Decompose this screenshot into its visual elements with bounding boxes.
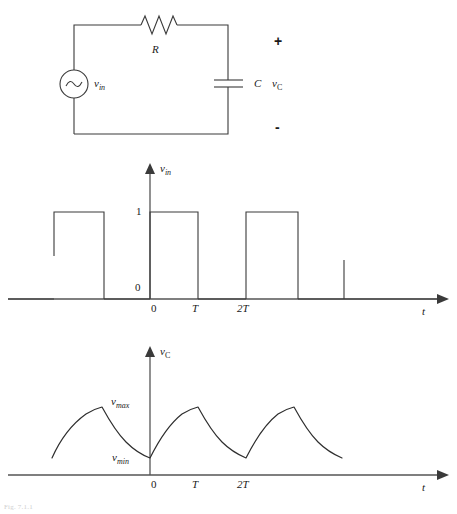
vin-x-axis-label: t: [422, 306, 425, 317]
vc-ytick-vmin: vmin: [112, 452, 129, 466]
vin-xtick-2T: 2T: [237, 303, 249, 314]
plus-sign-label: +: [274, 34, 282, 48]
capacitor-voltage-label: vC: [272, 78, 282, 92]
wire-top-left: [74, 25, 141, 70]
vin-y-axis-sub: in: [165, 168, 171, 177]
input-voltage-plot: [8, 163, 449, 304]
vin-ytick-0: 0: [135, 282, 141, 293]
figure-canvas: [0, 0, 457, 514]
vc-y-axis-arrowhead: [145, 346, 155, 357]
wire-top-right: [177, 25, 228, 80]
sine-wave-icon: [66, 81, 82, 86]
vin-y-axis-label: vin: [160, 163, 171, 177]
capacitor-label: C: [254, 78, 261, 89]
vc-ytick-vmin-sub: min: [117, 457, 129, 466]
vin-pulse-clipped-left: [54, 212, 104, 299]
rc-circuit-schematic: [60, 16, 243, 134]
vc-waveform-trace: [52, 407, 342, 458]
resistor-label: R: [152, 44, 159, 55]
vc-ytick-vmax-sub: max: [116, 401, 129, 410]
vin-ytick-1: 1: [136, 206, 142, 217]
wire-bottom-right: [74, 87, 228, 134]
capacitor-voltage-sub: C: [277, 83, 282, 92]
source-voltage-label: vin: [94, 78, 105, 92]
figure-root: R vin C + vC - vin 1 0 0 T 2T t vC vmax …: [0, 0, 457, 514]
vc-xtick-0: 0: [151, 479, 157, 490]
vc-y-axis-sub: C: [165, 351, 170, 360]
vc-x-axis-label: t: [422, 482, 425, 493]
vc-xtick-2T: 2T: [237, 479, 249, 490]
capacitor-voltage-plot: [8, 346, 449, 480]
vin-x-axis-arrowhead: [437, 294, 449, 304]
vin-xtick-T: T: [192, 303, 198, 314]
vin-pulse-0-to-T: [150, 212, 198, 299]
vc-y-axis-label: vC: [160, 346, 170, 360]
figure-caption: Fig. 7.1.1: [4, 503, 33, 511]
source-voltage-sub: in: [99, 83, 105, 92]
vc-xtick-T: T: [192, 479, 198, 490]
vin-pulse-2T-to-3T: [246, 212, 298, 299]
vin-y-axis-arrowhead: [145, 163, 155, 174]
resistor-icon: [141, 16, 177, 34]
vc-ytick-vmax: vmax: [111, 396, 129, 410]
vc-x-axis-arrowhead: [437, 470, 449, 480]
vin-xtick-0: 0: [151, 303, 157, 314]
minus-sign-label: -: [275, 120, 280, 134]
